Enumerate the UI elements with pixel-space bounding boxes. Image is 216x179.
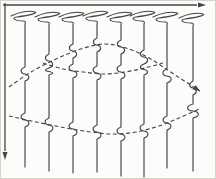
seismic-trace-8 [179, 13, 204, 171]
inner-event-dashed-curve [43, 63, 163, 74]
seismic-section-figure [0, 0, 216, 179]
seismic-trace-5 [107, 12, 132, 176]
lower-event-dashed-curve [9, 109, 199, 134]
seismic-trace-4 [83, 11, 108, 172]
seismic-trace-2 [35, 12, 60, 171]
seismic-trace-3 [59, 12, 84, 173]
upper-event-dashed-curve [9, 44, 200, 91]
seismic-trace-7 [153, 12, 178, 168]
seismic-trace-1 [11, 11, 36, 167]
y-axis-down-arrowhead-icon [3, 152, 8, 160]
seismic-trace-6 [130, 11, 155, 177]
x-axis-right-arrowhead-icon [198, 3, 206, 8]
diagram-canvas [1, 1, 216, 179]
upper-event-arrowhead-icon [193, 85, 200, 91]
